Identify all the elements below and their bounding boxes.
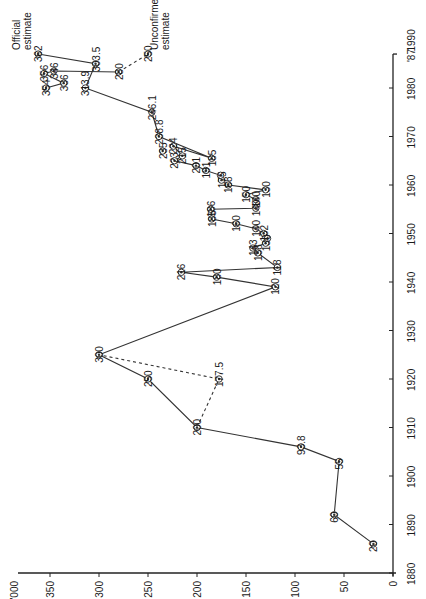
annotation-text: estimate (22, 12, 33, 50)
data-point-label: 160 (231, 215, 242, 232)
value-tick-label: 100 (290, 581, 301, 598)
year-tick-label: 1940 (406, 271, 417, 294)
data-point-label: 246.1 (147, 95, 158, 120)
data-point-label: 55 (334, 458, 345, 470)
data-point-label: 130 (261, 181, 272, 198)
data-markers (35, 51, 377, 547)
data-point-label: 313.9 (80, 71, 91, 96)
data-point-label: 60 (329, 511, 340, 523)
year-tick-label: 1890 (406, 514, 417, 537)
year-tick-label: 1950 (406, 223, 417, 246)
data-point-label: 303.5 (91, 46, 102, 71)
value-tick-label: 0 (388, 581, 399, 587)
data-point-label: 177.5 (214, 362, 225, 387)
data-point-label: 362 (33, 45, 44, 62)
year-tick-label: 1990 (406, 29, 417, 52)
data-point-label: 120 (270, 278, 281, 295)
year-tick-label: 1910 (406, 417, 417, 440)
data-labels: 20605593.8200250300120180216118138143130… (33, 45, 379, 552)
data-point-label: 300 (94, 346, 105, 363)
year-tick-label: 1980 (406, 77, 417, 100)
data-point-label: 186 (206, 200, 217, 217)
annotations: OfficialestimateUnconfirmedestimate (11, 0, 171, 50)
data-point-label: 336 (59, 74, 70, 91)
data-point-label: 118 (272, 259, 283, 275)
data-point-label: 224 (168, 137, 179, 154)
value-tick-label: 350 (45, 581, 56, 598)
data-point-label: 200 (192, 418, 203, 435)
year-tick-label: 1960 (406, 174, 417, 197)
data-point-label: 250 (143, 370, 154, 387)
data-point-label: 150 (241, 186, 252, 203)
value-tick-label: 200 (192, 581, 203, 598)
rotated-line-chart: 1880189019001910192019301940195019601970… (0, 0, 426, 599)
year-tick-label: '87 (406, 49, 417, 62)
value-unit-label: '000 (9, 581, 20, 599)
series-line (99, 355, 219, 428)
value-tick-label: 250 (143, 581, 154, 598)
data-point-label: 185 (207, 149, 218, 166)
annotation-text: Official (11, 20, 22, 50)
annotation-text: estimate (160, 12, 171, 50)
value-tick-label: 50 (339, 581, 350, 593)
data-point-label: 201 (191, 156, 202, 173)
axes: 1880189019001910192019301940195019601970… (9, 29, 417, 599)
data-point-label: 93.8 (296, 435, 307, 455)
data-point-label: 346 (49, 62, 60, 79)
annotation-text: Unconfirmed (149, 0, 160, 50)
value-tick-label: 300 (94, 581, 105, 598)
year-tick-label: 1900 (406, 465, 417, 488)
data-point-label: 180 (212, 268, 223, 285)
data-point-label: 238.8 (154, 119, 165, 144)
series-line (38, 54, 373, 544)
chart-canvas: 1880189019001910192019301940195019601970… (0, 0, 426, 599)
data-point-label: 140 (251, 220, 262, 237)
data-point-label: 235 (158, 142, 169, 159)
data-point-label: 20 (368, 540, 379, 552)
data-point-label: 175 (217, 171, 228, 188)
data-point-label: 280 (114, 63, 125, 80)
data-point-label: 216 (176, 263, 187, 280)
year-tick-label: 1970 (406, 126, 417, 149)
year-tick-label: 1930 (406, 320, 417, 343)
series-lines (38, 54, 373, 544)
year-tick-label: 1880 (406, 562, 417, 585)
year-tick-label: 1920 (406, 368, 417, 391)
value-tick-label: 150 (241, 581, 252, 598)
data-point-label: 143 (248, 239, 259, 256)
